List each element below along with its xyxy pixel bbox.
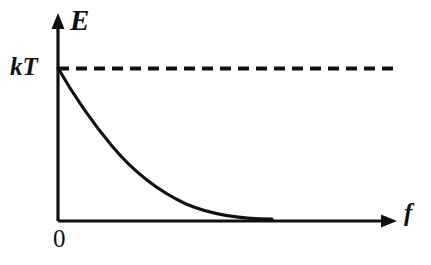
x-axis-arrowhead [381, 215, 397, 228]
x-axis-label: f [404, 200, 412, 225]
origin-label: 0 [53, 226, 66, 251]
y-axis-arrowhead [52, 13, 65, 29]
quantum-energy-curve [58, 68, 272, 219]
y-axis [52, 13, 65, 221]
chart-figure: E f kT 0 [0, 0, 431, 265]
y-axis-label: E [70, 6, 89, 35]
kt-level-label: kT [10, 54, 38, 79]
